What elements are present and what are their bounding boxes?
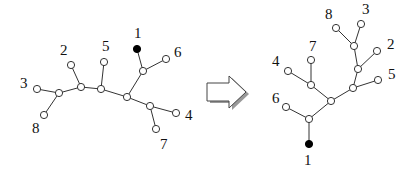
left-tree-node [172, 109, 179, 116]
right-tree-node [373, 47, 380, 54]
right-tree-node [332, 24, 339, 31]
right-root-node [305, 140, 312, 147]
right-leaf-label: 3 [362, 1, 370, 17]
right-leaf-label: 4 [272, 53, 280, 69]
left-tree-labels: 12345678 [20, 25, 193, 152]
right-edge [309, 101, 331, 119]
right-tree-node [307, 81, 314, 88]
left-leaf-label: 3 [20, 75, 28, 91]
right-tree-node [354, 65, 361, 72]
right-rooted-tree: 12345678 [272, 1, 396, 168]
left-tree-nodes [33, 45, 179, 132]
left-tree-node [67, 61, 74, 68]
right-leaf-label: 5 [388, 66, 396, 82]
left-tree-node [97, 85, 104, 92]
right-tree-node [349, 84, 356, 91]
right-leaf-label: 6 [272, 90, 280, 106]
left-tree-node [55, 89, 62, 96]
left-leaf-label: 1 [134, 25, 142, 41]
left-tree-node [162, 55, 169, 62]
right-tree-edges [286, 24, 378, 144]
right-tree-node [350, 42, 357, 49]
left-leaf-label: 2 [60, 42, 68, 58]
right-leaf-label: 8 [325, 6, 333, 22]
right-tree-node [327, 97, 334, 104]
right-tree-node [374, 76, 381, 83]
left-leaf-label: 7 [160, 136, 168, 152]
right-tree-node [282, 103, 289, 110]
left-leaf-label: 8 [32, 120, 40, 136]
left-tree-node [146, 102, 153, 109]
left-tree-node [33, 85, 40, 92]
left-unrooted-tree: 12345678 [20, 25, 193, 152]
right-leaf-label: 2 [387, 36, 395, 52]
left-edge [127, 71, 143, 97]
left-leaf-label: 5 [102, 38, 110, 54]
left-tree-node [152, 125, 159, 132]
right-leaf-label: 1 [304, 152, 312, 168]
left-leaf-label: 4 [185, 107, 193, 123]
right-tree-node [284, 67, 291, 74]
left-tree-node [40, 111, 47, 118]
transform-arrow-icon [207, 76, 249, 110]
left-root-node [133, 45, 140, 52]
right-leaf-label: 7 [309, 38, 317, 54]
left-tree-node [123, 93, 130, 100]
right-tree-node [357, 20, 364, 27]
right-tree-node [305, 115, 312, 122]
left-leaf-label: 6 [174, 44, 182, 60]
tree-rerooting-diagram: 12345678 12345678 [0, 0, 413, 175]
left-tree-node [139, 67, 146, 74]
left-tree-node [100, 58, 107, 65]
right-tree-node [307, 56, 314, 63]
left-tree-node [77, 83, 84, 90]
